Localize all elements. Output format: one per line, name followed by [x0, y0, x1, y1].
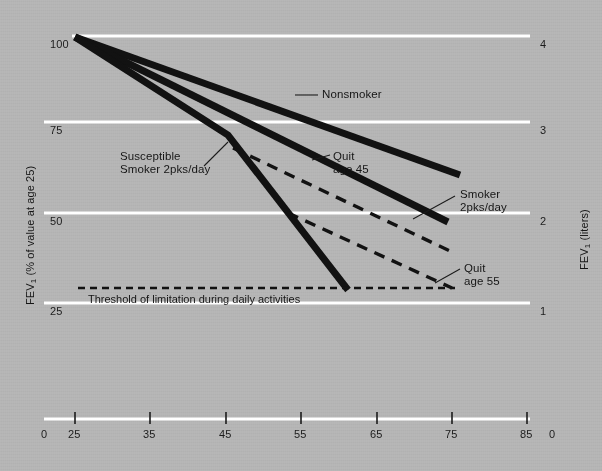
xtick-label-origin-right: 0: [549, 428, 555, 440]
y2-axis-title-suffix: (liters): [578, 209, 590, 244]
label-susceptible-smoker: Susceptible Smoker 2pks/day: [120, 150, 210, 176]
y2tick-label-4: 4: [540, 38, 546, 50]
series-quit-age-55: [288, 213, 452, 288]
label-quit-age-55-line1: Quit: [464, 262, 500, 275]
y-axis-title-prefix: FEV: [24, 283, 36, 305]
label-smoker-2pks: Smoker 2pks/day: [460, 188, 507, 214]
chart-plot-area: [0, 0, 602, 471]
xtick-label-45: 45: [219, 428, 231, 440]
label-threshold: Threshold of limitation during daily act…: [88, 293, 300, 305]
label-quit-age-45: Quit age 45: [333, 150, 369, 176]
label-quit-age-45-line1: Quit: [333, 150, 369, 163]
fletcher-peto-chart: 100 75 50 25 4 3 2 1 0 25 35 45 55 65 75…: [0, 0, 602, 471]
label-smoker-2pks-line2: 2pks/day: [460, 201, 507, 214]
y-axis-title-suffix: (% of value at age 25): [24, 166, 36, 279]
label-quit-age-45-line2: age 45: [333, 163, 369, 176]
y2-axis-title-subscript: 1: [583, 244, 592, 249]
ytick-label-25: 25: [50, 305, 62, 317]
label-quit-age-55-line2: age 55: [464, 275, 500, 288]
label-nonsmoker: Nonsmoker: [322, 88, 382, 101]
y-axis-title: FEV1 (% of value at age 25): [24, 166, 38, 305]
ytick-label-50: 50: [50, 215, 62, 227]
y-axis-title-subscript: 1: [29, 279, 38, 284]
label-smoker-2pks-line1: Smoker: [460, 188, 507, 201]
xtick-label-35: 35: [143, 428, 155, 440]
label-susceptible-smoker-line1: Susceptible: [120, 150, 210, 163]
y2-axis-title-prefix: FEV: [578, 248, 590, 270]
xtick-label-55: 55: [294, 428, 306, 440]
label-quit-age-55: Quit age 55: [464, 262, 500, 288]
xtick-label-25: 25: [68, 428, 80, 440]
series-susceptible-smoker: [75, 37, 348, 290]
series-smoker-2pks: [75, 37, 448, 222]
y2-axis-title: FEV1 (liters): [578, 209, 592, 270]
xtick-label-origin-left: 0: [41, 428, 47, 440]
leader-quit55: [435, 269, 460, 283]
xtick-label-75: 75: [445, 428, 457, 440]
y2tick-label-1: 1: [540, 305, 546, 317]
y2tick-label-2: 2: [540, 215, 546, 227]
label-susceptible-smoker-line2: Smoker 2pks/day: [120, 163, 210, 176]
gridlines: [44, 36, 530, 419]
xtick-label-65: 65: [370, 428, 382, 440]
xtick-label-85: 85: [520, 428, 532, 440]
ytick-label-75: 75: [50, 124, 62, 136]
ytick-label-100: 100: [50, 38, 69, 50]
y2tick-label-3: 3: [540, 124, 546, 136]
